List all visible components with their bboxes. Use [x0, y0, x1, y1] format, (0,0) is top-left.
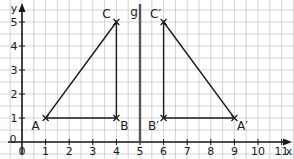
point-label-A: A [31, 119, 40, 133]
grid-lines [0, 0, 294, 159]
y-axis-label: y [11, 2, 18, 15]
x-axis-label: x [286, 145, 293, 158]
y-tick-label: 2 [11, 88, 18, 101]
x-tick-label: 4 [113, 145, 120, 158]
point-label-A2: A′ [237, 119, 248, 133]
y-tick-label: 4 [11, 40, 18, 53]
grid-svg: 01234567891011x012345y g ABCA′B′C′ [0, 0, 294, 159]
x-tick-label: 1 [42, 145, 49, 158]
x-tick-label: 5 [137, 145, 144, 158]
tick-labels: 01234567891011x012345y [10, 2, 293, 158]
x-tick-label: 6 [160, 145, 167, 158]
x-tick-label: 0 [19, 145, 26, 158]
mirror-line-g: g [130, 4, 140, 142]
y-tick-label: 0 [10, 133, 17, 146]
x-tick-label: 9 [231, 145, 238, 158]
point-label-C: C [102, 7, 110, 21]
y-tick-label: 5 [11, 16, 18, 29]
point-label-B2: B′ [148, 119, 159, 133]
point-label-B: B [120, 119, 128, 133]
point-label-C2: C′ [150, 7, 161, 21]
x-tick-label: 7 [184, 145, 191, 158]
coordinate-diagram: 01234567891011x012345y g ABCA′B′C′ [0, 0, 294, 159]
y-tick-label: 1 [11, 112, 18, 125]
x-tick-label: 2 [66, 145, 73, 158]
y-axis-arrow-icon [19, 3, 26, 12]
x-tick-label: 10 [251, 145, 265, 158]
x-tick-label: 3 [89, 145, 96, 158]
y-tick-label: 3 [11, 64, 18, 77]
mirror-line-label: g [130, 5, 138, 19]
x-tick-label: 8 [207, 145, 214, 158]
